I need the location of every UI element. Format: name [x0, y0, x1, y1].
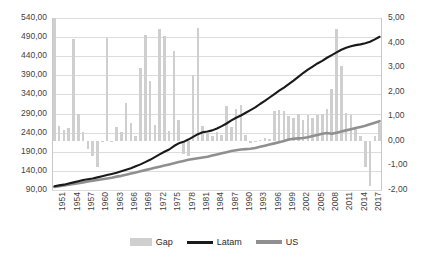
- x-axis-tick-label: 1993: [259, 192, 268, 211]
- chart-container: 90,00140,00190,00240,00290,00340,00390,0…: [0, 0, 428, 258]
- y-axis-right-tick-label: 1,00: [388, 111, 426, 120]
- x-axis-tick-label: 1975: [173, 192, 182, 211]
- x-axis-tick-label: 1957: [87, 192, 96, 211]
- legend-label: US: [286, 237, 299, 247]
- x-axis-tick-label: 1951: [58, 192, 67, 211]
- x-axis-tick-label: 1987: [231, 192, 240, 211]
- x-axis-tick-label: 1963: [116, 192, 125, 211]
- y-axis-left: 90,00140,00190,00240,00290,00340,00390,0…: [0, 0, 47, 258]
- x-axis-tick-label: 1969: [144, 192, 153, 211]
- legend-label: Latam: [217, 237, 242, 247]
- x-axis-tick-label: 1954: [73, 192, 82, 211]
- x-axis-tick-label: 1990: [245, 192, 254, 211]
- y-axis-left-tick-label: 190,00: [3, 147, 47, 156]
- legend-swatch-latam-icon: [187, 241, 213, 244]
- x-axis-tick-label: 1996: [274, 192, 283, 211]
- chart-legend: GapLatamUS: [0, 232, 428, 252]
- x-axis-tick-label: 1984: [216, 192, 225, 211]
- legend-item[interactable]: Latam: [187, 237, 242, 247]
- x-axis-tick-label: 2005: [317, 192, 326, 211]
- y-axis-left-tick-label: 490,00: [3, 32, 47, 41]
- y-axis-right-tick-label: 5,00: [388, 13, 426, 22]
- legend-swatch-us-icon: [256, 240, 282, 244]
- plot-area: [52, 18, 382, 190]
- y-axis-left-tick-label: 140,00: [3, 166, 47, 175]
- x-axis-tick-label: 1972: [159, 192, 168, 211]
- y-axis-right-tick-label: 4,00: [388, 38, 426, 47]
- y-axis-left-tick-label: 540,00: [3, 13, 47, 22]
- y-axis-left-tick-label: 340,00: [3, 89, 47, 98]
- y-axis-right-tick-label: 2,00: [388, 87, 426, 96]
- x-axis-tick-label: 2014: [360, 192, 369, 211]
- y-axis-left-tick-label: 440,00: [3, 51, 47, 60]
- x-axis-tick-label: 2017: [374, 192, 383, 211]
- y-axis-right: -2,00-1,000,001,002,003,004,005,00: [388, 0, 428, 258]
- legend-item[interactable]: US: [256, 237, 299, 247]
- x-axis: 1951195419571960196319661969197219751978…: [52, 190, 382, 230]
- y-axis-right-tick-label: 0,00: [388, 136, 426, 145]
- line-series-latam: [54, 37, 379, 186]
- y-axis-left-tick-label: 240,00: [3, 128, 47, 137]
- x-axis-tick-label: 1960: [101, 192, 110, 211]
- y-axis-left-tick-label: 290,00: [3, 109, 47, 118]
- y-axis-right-tick-label: -1,00: [388, 160, 426, 169]
- x-axis-tick-label: 1966: [130, 192, 139, 211]
- y-axis-left-tick-label: 390,00: [3, 70, 47, 79]
- x-axis-tick-label: 1999: [288, 192, 297, 211]
- x-axis-tick-label: 2011: [345, 192, 354, 210]
- legend-item[interactable]: Gap: [130, 237, 173, 247]
- x-axis-tick-label: 1981: [202, 192, 211, 211]
- y-axis-right-tick-label: 3,00: [388, 62, 426, 71]
- y-axis-left-tick-label: 90,00: [3, 185, 47, 194]
- legend-label: Gap: [156, 237, 173, 247]
- y-axis-right-tick-label: -2,00: [388, 185, 426, 194]
- legend-swatch-gap-icon: [130, 238, 152, 246]
- x-axis-tick-label: 2002: [302, 192, 311, 211]
- x-axis-tick-label: 2008: [331, 192, 340, 211]
- x-axis-tick-label: 1978: [188, 192, 197, 211]
- line-series-layer: [52, 18, 382, 190]
